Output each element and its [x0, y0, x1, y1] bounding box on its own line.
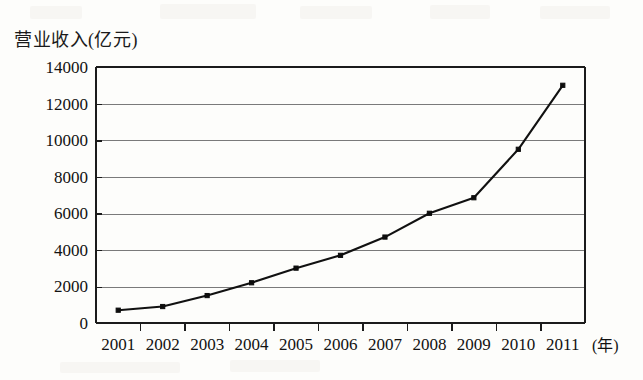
x-tick-label: 2003: [190, 335, 224, 354]
x-tick-label: 2001: [101, 335, 135, 354]
plot-background: [96, 67, 585, 323]
y-axis-tick-labels: 02000400060008000100001200014000: [46, 58, 89, 333]
x-axis-tick-labels: 2001200220032004200520062007200820092010…: [101, 335, 579, 354]
x-tick-label: 2005: [279, 335, 313, 354]
data-point-marker: [472, 196, 476, 200]
y-tick-label: 0: [80, 314, 89, 333]
x-tick-label: 2010: [501, 335, 535, 354]
y-tick-label: 14000: [46, 58, 89, 77]
x-axis-unit-label: (年): [592, 337, 619, 355]
y-tick-label: 2000: [54, 277, 88, 296]
x-tick-label: 2006: [324, 335, 358, 354]
x-tick-label: 2007: [368, 335, 403, 354]
x-tick-label: 2009: [457, 335, 491, 354]
y-tick-label: 6000: [54, 204, 88, 223]
revenue-line-chart: 02000400060008000100001200014000 2001200…: [0, 0, 643, 380]
chart-page: 营业收入(亿元): [0, 0, 643, 380]
x-tick-label: 2004: [235, 335, 270, 354]
x-tick-label: 2008: [412, 335, 446, 354]
data-point-marker: [516, 147, 520, 151]
y-tick-label: 8000: [54, 168, 88, 187]
data-point-marker: [427, 211, 431, 215]
y-tick-label: 12000: [46, 95, 89, 114]
data-point-marker: [338, 253, 342, 257]
data-point-marker: [161, 304, 165, 308]
x-tick-label: 2002: [146, 335, 180, 354]
data-point-marker: [294, 266, 298, 270]
data-point-marker: [249, 281, 253, 285]
data-point-marker: [383, 235, 387, 239]
x-tick-label: 2011: [546, 335, 579, 354]
data-point-marker: [561, 83, 565, 87]
data-point-marker: [116, 308, 120, 312]
y-tick-label: 4000: [54, 241, 88, 260]
data-point-marker: [205, 293, 209, 297]
x-axis-ticks: [141, 323, 542, 331]
y-tick-label: 10000: [46, 131, 89, 150]
